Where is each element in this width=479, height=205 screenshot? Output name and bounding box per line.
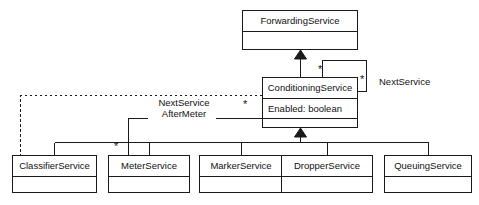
- class-compartment-empty-conditioning-service: [263, 118, 357, 131]
- class-name-classifier-service: ClassifierService: [13, 156, 96, 176]
- class-compartment-empty-meter-service: [109, 176, 189, 194]
- class-compartment-empty-dropper-service: [282, 176, 372, 194]
- class-box-marker-service[interactable]: MarkerService: [199, 155, 283, 193]
- class-box-classifier-service[interactable]: ClassifierService: [12, 155, 97, 193]
- class-name-meter-service: MeterService: [109, 156, 189, 176]
- uml-class-diagram: ForwardingService ConditioningService En…: [0, 0, 479, 205]
- class-name-marker-service: MarkerService: [200, 156, 282, 176]
- association-label-next-service-after-meter-line1: NextService: [150, 97, 218, 108]
- class-attribute-conditioning-service-enabled: Enabled: boolean: [263, 98, 357, 119]
- class-compartment-empty-forwarding-service: [243, 31, 357, 50]
- class-box-conditioning-service[interactable]: ConditioningService Enabled: boolean: [262, 77, 358, 128]
- generalization-arrowhead-forwarding: [295, 50, 307, 59]
- class-compartment-empty-marker-service: [200, 176, 282, 194]
- multiplicity-after-meter-meter-end: *: [114, 141, 118, 152]
- association-label-next-service-self: NextService: [379, 76, 430, 87]
- class-compartment-empty-queuing-service: [385, 176, 471, 194]
- multiplicity-self-association-right: *: [360, 74, 364, 85]
- class-box-forwarding-service[interactable]: ForwardingService: [242, 10, 358, 50]
- multiplicity-self-association-top: *: [318, 64, 322, 75]
- class-name-conditioning-service: ConditioningService: [263, 78, 357, 98]
- class-box-dropper-service[interactable]: DropperService: [281, 155, 373, 193]
- class-compartment-empty-classifier-service: [13, 176, 96, 194]
- class-name-dropper-service: DropperService: [282, 156, 372, 176]
- multiplicity-after-meter-conditioning-end: *: [243, 99, 247, 110]
- association-label-next-service-after-meter-line2: AfterMeter: [150, 108, 218, 119]
- dependency-classifier-to-conditioning: [21, 96, 263, 156]
- class-box-queuing-service[interactable]: QueuingService: [384, 155, 472, 193]
- class-name-queuing-service: QueuingService: [385, 156, 471, 176]
- class-box-meter-service[interactable]: MeterService: [108, 155, 190, 193]
- class-name-forwarding-service: ForwardingService: [243, 11, 357, 31]
